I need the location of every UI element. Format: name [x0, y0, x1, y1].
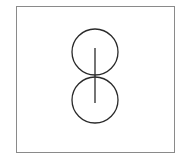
diagram-canvas — [0, 0, 181, 163]
